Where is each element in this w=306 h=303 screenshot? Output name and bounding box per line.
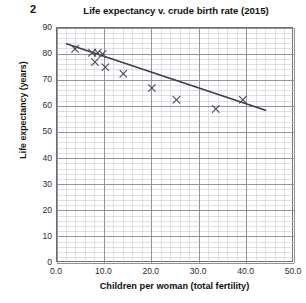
- data-layer: [57, 28, 294, 263]
- data-point-marker: [102, 64, 109, 71]
- chart-page: 2 Life expectancy v. crude birth rate (2…: [0, 0, 306, 303]
- x-tick-label: 50.0: [273, 266, 306, 276]
- x-tick-label: 40.0: [226, 266, 266, 276]
- y-tick-label: 10: [2, 231, 52, 241]
- data-point-marker: [212, 106, 219, 113]
- x-tick-label: 10.0: [83, 266, 123, 276]
- x-tick-label: 0.0: [36, 266, 76, 276]
- data-point-marker: [173, 96, 180, 103]
- data-point-marker: [148, 85, 155, 92]
- question-number: 2: [30, 3, 36, 15]
- y-tick-label: 20: [2, 205, 52, 215]
- y-axis-label: Life expectancy (years): [18, 30, 28, 190]
- x-axis-label: Children per woman (total fertility): [56, 281, 293, 291]
- data-point-marker: [120, 70, 127, 77]
- x-tick-label: 20.0: [131, 266, 171, 276]
- x-axis-tick-labels: 0.010.020.030.040.050.0: [56, 266, 293, 280]
- data-point-marker: [92, 59, 99, 66]
- plot-area: [56, 27, 293, 262]
- x-tick-label: 30.0: [178, 266, 218, 276]
- chart-title: Life expectancy v. crude birth rate (201…: [56, 5, 296, 16]
